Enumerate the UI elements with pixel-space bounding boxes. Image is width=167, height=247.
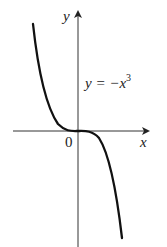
x-axis-label: x bbox=[139, 134, 147, 150]
y-axis-label: y bbox=[61, 8, 70, 24]
origin-label: 0 bbox=[65, 134, 73, 150]
equation-label: y = −x3 bbox=[83, 72, 131, 91]
graph-canvas: y x 0 y = −x3 bbox=[0, 0, 167, 247]
equation-exponent: 3 bbox=[126, 72, 131, 83]
equation-main: y = −x bbox=[83, 75, 126, 91]
